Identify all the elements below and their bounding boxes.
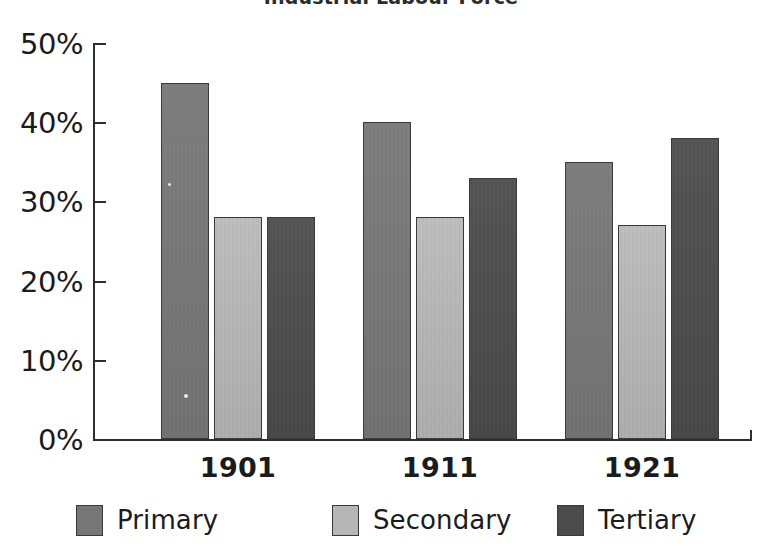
scan-speckle xyxy=(184,394,188,398)
x-axis-line xyxy=(93,439,752,441)
y-axis-tick xyxy=(93,43,106,45)
x-axis-label-1921: 1921 xyxy=(604,452,680,483)
x-axis-label-1911: 1911 xyxy=(402,452,478,483)
y-axis-tick-label: 40% xyxy=(20,106,83,140)
bar-primary-1911 xyxy=(363,122,411,439)
bar-secondary-1921 xyxy=(618,225,666,439)
legend-item-primary[interactable]: Primary xyxy=(76,500,218,540)
x-axis-label-1901: 1901 xyxy=(200,452,276,483)
chart-plot-area: 50%40%30%20%10%0% xyxy=(93,43,752,441)
bar-secondary-1911 xyxy=(416,217,464,439)
bar-tertiary-1901 xyxy=(267,217,315,439)
bar-primary-1921 xyxy=(565,162,613,439)
bar-primary-1901 xyxy=(161,83,209,439)
bar-tertiary-1921 xyxy=(671,138,719,439)
scan-speckle xyxy=(168,183,171,186)
y-axis-tick-label: 10% xyxy=(20,344,83,378)
y-axis-tick-label: 20% xyxy=(20,265,83,299)
page-title: Industrial Labour Force xyxy=(0,0,782,8)
legend-label-primary: Primary xyxy=(117,505,218,535)
y-axis-tick xyxy=(93,201,106,203)
y-axis-tick xyxy=(93,281,106,283)
y-axis-tick xyxy=(93,439,106,441)
legend-item-secondary[interactable]: Secondary xyxy=(332,500,512,540)
legend-label-tertiary: Tertiary xyxy=(598,505,696,535)
legend-swatch-primary xyxy=(76,505,103,536)
y-axis-tick xyxy=(93,360,106,362)
y-axis-tick-label: 0% xyxy=(38,423,83,457)
y-axis-tick-label: 50% xyxy=(20,27,83,61)
bar-secondary-1901 xyxy=(214,217,262,439)
legend-label-secondary: Secondary xyxy=(373,505,512,535)
bar-tertiary-1911 xyxy=(469,178,517,439)
legend-swatch-tertiary xyxy=(557,505,584,536)
legend-item-tertiary[interactable]: Tertiary xyxy=(557,500,696,540)
x-axis-end-tick xyxy=(750,430,752,441)
y-axis-line xyxy=(93,43,95,441)
y-axis-tick-label: 30% xyxy=(20,185,83,219)
legend-swatch-secondary xyxy=(332,505,359,536)
chart-legend: PrimarySecondaryTertiary xyxy=(0,500,782,544)
y-axis-tick xyxy=(93,122,106,124)
